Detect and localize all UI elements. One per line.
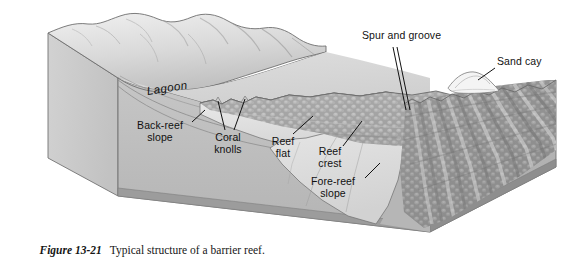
label-sand-cay: Sand cay: [497, 56, 542, 68]
figure-container: Spur and groove Sand cay Lagoon Back-ree…: [0, 0, 586, 270]
label-spur-and-groove: Spur and groove: [362, 30, 441, 42]
label-fore-reef-slope: Fore-reef slope: [300, 176, 366, 199]
figure-number: Figure 13-21: [40, 244, 102, 256]
label-reef-flat: Reef flat: [263, 136, 303, 159]
label-coral-knolls: Coral knolls: [203, 132, 253, 155]
label-back-reef-slope: Back-reef slope: [126, 120, 194, 143]
figure-caption-text: Typical structure of a barrier reef.: [110, 244, 265, 256]
sand-cay: [448, 72, 499, 94]
label-reef-crest: Reef crest: [308, 146, 352, 169]
figure-caption: Figure 13-21Typical structure of a barri…: [28, 232, 265, 268]
